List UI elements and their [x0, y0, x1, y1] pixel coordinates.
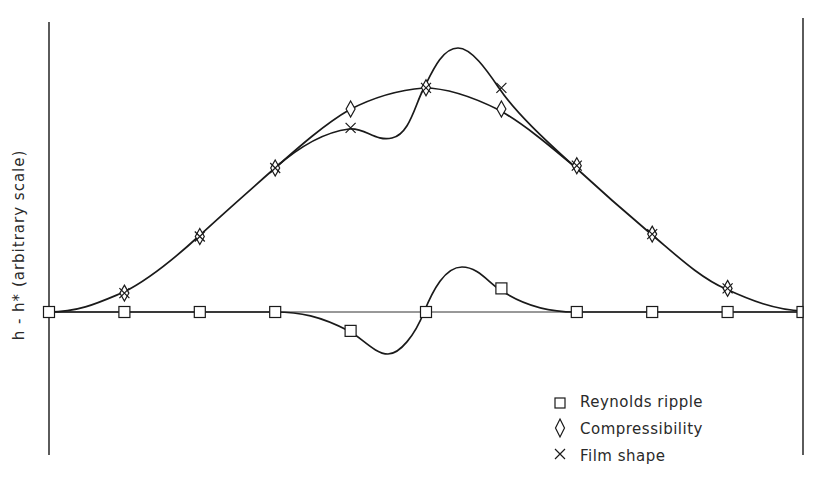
square-marker — [119, 307, 130, 318]
square-marker — [194, 307, 205, 318]
legend-item-compressibility: Compressibility — [553, 415, 703, 442]
film-shape-curve — [275, 48, 575, 168]
legend-item-reynolds-ripple: Reynolds ripple — [553, 388, 703, 415]
square-marker — [647, 307, 658, 318]
square-marker — [496, 283, 507, 294]
square-marker — [722, 307, 733, 318]
legend-item-film-shape: Film shape — [553, 442, 703, 469]
square-marker — [345, 325, 356, 336]
legend-label: Compressibility — [580, 420, 703, 438]
y-axis-label: h - h* (arbitrary scale) — [4, 60, 34, 430]
compressibility-curve — [49, 88, 803, 312]
cross-marker — [346, 123, 356, 133]
legend: Reynolds ripple Compressibility Film sha… — [553, 388, 703, 469]
data-markers — [44, 80, 804, 337]
square-marker — [571, 307, 582, 318]
square-marker — [797, 307, 803, 318]
legend-label: Reynolds ripple — [580, 393, 703, 411]
diamond-marker — [497, 101, 506, 117]
legend-label: Film shape — [580, 447, 666, 465]
square-marker — [44, 307, 55, 318]
diamond-marker — [346, 101, 355, 117]
square-marker — [421, 307, 432, 318]
y-axis-label-text: h - h* (arbitrary scale) — [10, 150, 28, 341]
square-marker — [270, 307, 281, 318]
